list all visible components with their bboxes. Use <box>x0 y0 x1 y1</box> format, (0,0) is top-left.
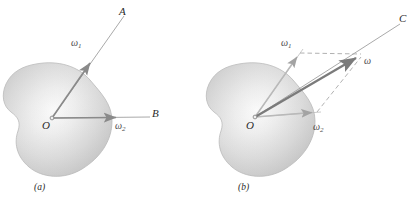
vector-omega2-a <box>52 118 116 119</box>
panel-b-group <box>206 24 400 176</box>
figure-canvas <box>0 0 416 202</box>
label-omega1-b: ω1 <box>281 38 292 50</box>
label-axis-c: C <box>399 13 406 24</box>
label-omega1-a: ω1 <box>71 38 82 50</box>
rigid-body-shading-b <box>206 63 315 177</box>
label-omega1-b-glyph: ω <box>281 37 288 48</box>
label-omega2-a-sub: 2 <box>122 125 126 133</box>
label-omega2-b-glyph: ω <box>313 121 320 132</box>
label-omega2-b-sub: 2 <box>320 126 324 134</box>
label-omega2-a-glyph: ω <box>115 120 122 131</box>
label-omega-resultant-b: ω <box>364 56 371 68</box>
figure-angular-velocity-addition: A ω1 O B ω2 (a) C ω1 ω O ω2 (b) <box>0 0 416 202</box>
label-omega-resultant-glyph: ω <box>364 55 371 66</box>
label-omega2-b: ω2 <box>313 122 324 134</box>
label-origin-a: O <box>42 120 50 131</box>
dashed-omega1-to-resultant <box>300 53 361 54</box>
label-axis-b: B <box>152 108 159 119</box>
rigid-body-shading-a <box>3 63 112 177</box>
label-omega1-a-glyph: ω <box>71 37 78 48</box>
label-axis-a: A <box>119 6 126 17</box>
dashed-omega2-to-resultant <box>317 57 361 112</box>
label-omega2-a: ω2 <box>115 121 126 133</box>
origin-point-a <box>50 116 54 120</box>
label-origin-b: O <box>246 120 254 131</box>
panel-caption-b: (b) <box>238 183 249 193</box>
label-omega1-b-sub: 1 <box>288 42 292 50</box>
panel-caption-a: (a) <box>34 183 45 193</box>
label-omega1-a-sub: 1 <box>78 42 82 50</box>
